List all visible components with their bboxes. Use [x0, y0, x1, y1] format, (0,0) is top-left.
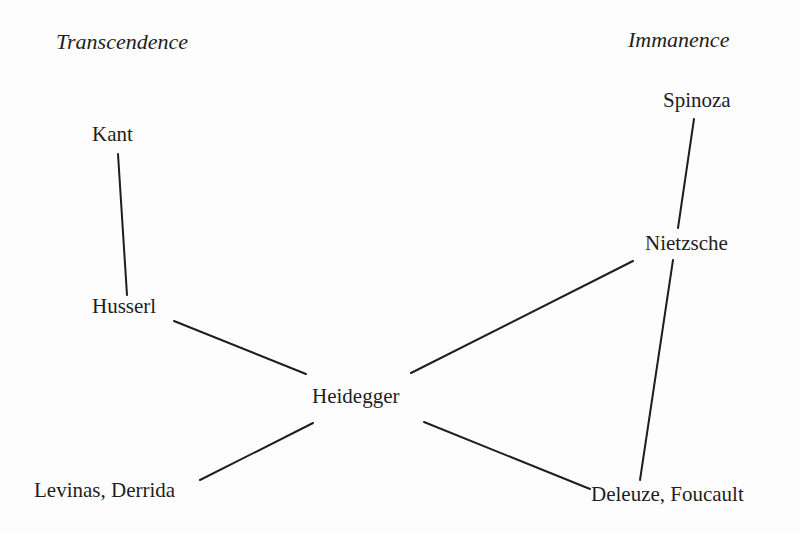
edge-husserl-heidegger [174, 321, 306, 374]
edge-heidegger-levinas-derrida [200, 423, 313, 480]
edges-layer [0, 0, 801, 534]
node-kant: Kant [92, 122, 133, 146]
edge-heidegger-deleuze-foucault [424, 422, 590, 489]
node-husserl: Husserl [92, 294, 156, 318]
node-spinoza: Spinoza [663, 88, 731, 112]
header-immanence: Immanence [628, 28, 729, 52]
edge-kant-husserl [118, 154, 127, 295]
header-transcendence: Transcendence [56, 30, 188, 54]
edge-nietzsche-heidegger [411, 261, 633, 373]
node-levinas-derrida: Levinas, Derrida [34, 478, 175, 502]
edge-spinoza-nietzsche [678, 119, 694, 228]
node-heidegger: Heidegger [312, 384, 399, 408]
node-deleuze-foucault: Deleuze, Foucault [591, 482, 744, 506]
node-nietzsche: Nietzsche [645, 231, 728, 255]
edge-nietzsche-deleuze-foucault [640, 260, 673, 480]
